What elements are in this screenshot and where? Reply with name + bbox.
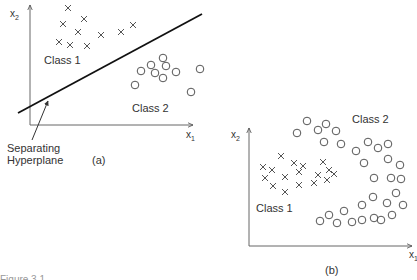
class2-circle-marker	[147, 61, 155, 69]
class1-cross-marker	[331, 171, 337, 177]
class1-cross-marker	[56, 39, 62, 45]
class2-circle-marker	[293, 129, 301, 137]
panel-a-class2-markers	[131, 54, 204, 96]
class2-circle-marker	[399, 201, 407, 209]
class2-circle-marker	[303, 117, 311, 125]
class2-circle-marker	[384, 155, 392, 163]
panel-b-class1-label: Class 1	[256, 202, 293, 214]
class1-cross-marker	[67, 42, 73, 48]
class2-circle-marker	[396, 161, 404, 169]
class2-circle-marker	[358, 201, 366, 209]
panel-a-class2-label: Class 2	[132, 102, 169, 114]
class2-circle-marker	[387, 174, 395, 182]
class2-circle-marker	[358, 216, 366, 224]
hyperplane-label-line1: Separating	[7, 142, 60, 154]
class1-cross-marker	[269, 167, 275, 173]
class2-circle-marker	[187, 88, 195, 96]
class2-circle-marker	[131, 81, 139, 89]
figure-caption-partial: Figure 3.1	[0, 274, 45, 280]
class2-circle-marker	[352, 147, 360, 155]
class2-circle-marker	[370, 214, 378, 222]
class2-circle-marker	[196, 65, 204, 73]
class2-circle-marker	[384, 140, 392, 148]
class2-circle-marker	[360, 159, 368, 167]
panel-b: x2 x1 Class 1 Class 2 (b)	[231, 113, 417, 276]
panel-a-x-axis-label: x1	[186, 129, 195, 142]
class2-circle-marker	[333, 219, 341, 227]
class2-circle-marker	[172, 68, 180, 76]
class2-circle-marker	[377, 216, 385, 224]
class1-cross-marker	[296, 182, 302, 188]
class2-circle-marker	[374, 144, 382, 152]
figure: x2 x1 Class 1 Class 2 Separating Hyperpl…	[0, 0, 417, 280]
hyperplane-pointer-arrow	[32, 101, 48, 140]
class1-cross-marker	[84, 43, 90, 49]
panel-a-class1-markers	[56, 5, 136, 49]
class2-circle-marker	[137, 67, 145, 75]
class2-circle-marker	[369, 193, 377, 201]
class2-circle-marker	[340, 207, 348, 215]
class1-cross-marker	[311, 180, 317, 186]
class2-circle-marker	[370, 174, 378, 182]
class1-cross-marker	[98, 32, 104, 38]
class2-circle-marker	[316, 217, 324, 225]
class1-cross-marker	[75, 29, 81, 35]
class2-circle-marker	[159, 54, 167, 62]
class1-cross-marker	[278, 153, 284, 159]
class1-cross-marker	[282, 174, 288, 180]
panel-b-caption: (b)	[325, 264, 338, 276]
class2-circle-marker	[320, 138, 328, 146]
class1-cross-marker	[320, 159, 326, 165]
class1-cross-marker	[324, 177, 330, 183]
class1-cross-marker	[300, 163, 306, 169]
class1-cross-marker	[296, 169, 302, 175]
class2-circle-marker	[383, 199, 391, 207]
class1-cross-marker	[326, 167, 332, 173]
class2-circle-marker	[162, 62, 170, 70]
class2-circle-marker	[388, 211, 396, 219]
class1-cross-marker	[270, 183, 276, 189]
class1-cross-marker	[65, 5, 71, 11]
class2-circle-marker	[314, 126, 322, 134]
class1-cross-marker	[130, 22, 136, 28]
hyperplane-label-line2: Hyperplane	[7, 154, 63, 166]
panel-b-class2-label: Class 2	[352, 113, 389, 125]
class2-circle-marker	[159, 74, 167, 82]
class2-circle-marker	[332, 127, 340, 135]
panel-b-class1-markers	[260, 153, 337, 195]
class1-cross-marker	[291, 160, 297, 166]
panel-b-x-axis-label: x1	[409, 249, 417, 262]
class2-circle-marker	[397, 175, 405, 183]
panel-a-caption: (a)	[92, 154, 105, 166]
class2-circle-marker	[392, 189, 400, 197]
class2-circle-marker	[348, 218, 356, 226]
class1-cross-marker	[118, 29, 124, 35]
class1-cross-marker	[81, 16, 87, 22]
class2-circle-marker	[322, 120, 330, 128]
class2-circle-marker	[325, 211, 333, 219]
class2-circle-marker	[151, 69, 159, 77]
panel-a-y-axis-label: x2	[10, 8, 19, 21]
panel-a: x2 x1 Class 1 Class 2 Separating Hyperpl…	[7, 5, 204, 166]
panel-b-class2-markers	[293, 117, 407, 227]
class1-cross-marker	[262, 175, 268, 181]
class1-cross-marker	[60, 21, 66, 27]
panel-a-class1-label: Class 1	[44, 54, 81, 66]
class1-cross-marker	[315, 172, 321, 178]
class2-circle-marker	[337, 140, 345, 148]
class2-circle-marker	[364, 138, 372, 146]
class1-cross-marker	[282, 189, 288, 195]
class1-cross-marker	[260, 164, 266, 170]
panel-b-y-axis-label: x2	[231, 129, 240, 142]
